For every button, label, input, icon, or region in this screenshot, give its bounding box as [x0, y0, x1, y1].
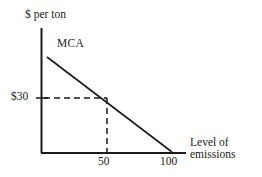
x-axis-title: Level of emissions: [190, 136, 235, 160]
y-axis-tick-label-30: $30: [11, 90, 28, 102]
x-axis-tick-label-50: 50: [98, 155, 110, 167]
mca-curve-label: MCA: [57, 37, 84, 49]
y-axis-title: $ per ton: [25, 8, 66, 20]
mca-curve: [47, 57, 172, 152]
x-axis-title-line-1: Level of: [190, 136, 235, 148]
x-axis-tick-label-100: 100: [160, 155, 177, 167]
x-axis-title-line-2: emissions: [190, 148, 235, 160]
emissions-abatement-chart: $ per ton MCA $30 50 100 Level of emissi…: [0, 0, 262, 177]
